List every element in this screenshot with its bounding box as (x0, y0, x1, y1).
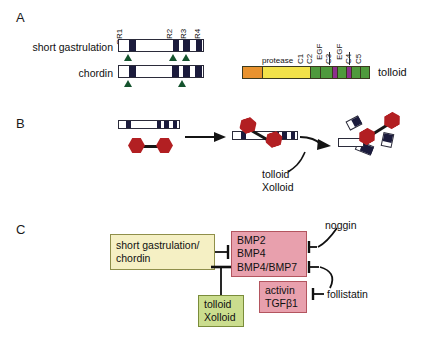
panel-c-connectors (0, 0, 427, 338)
figure-canvas: A CR1 CR2 CR3 CR4 short gastrulation cho… (0, 0, 427, 338)
